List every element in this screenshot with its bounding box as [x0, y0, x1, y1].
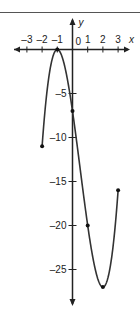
- x-tick-label: 2: [100, 34, 106, 45]
- x-tick-label: –2: [37, 34, 49, 45]
- data-point: [101, 285, 105, 289]
- data-point: [86, 224, 90, 228]
- y-tick-label: –5: [55, 88, 67, 99]
- origin-label: 0: [76, 36, 82, 47]
- x-axis-label: x: [128, 34, 135, 45]
- y-arrow-up-icon: [70, 18, 76, 25]
- x-arrow-right-icon: [124, 47, 130, 53]
- data-point: [71, 109, 75, 113]
- x-tick-label: –1: [52, 34, 64, 45]
- x-tick-label: 1: [85, 34, 91, 45]
- function-curve: [42, 50, 118, 288]
- data-point: [40, 144, 44, 148]
- x-tick-label: –3: [21, 34, 33, 45]
- y-arrow-down-icon: [70, 299, 76, 306]
- data-point: [116, 188, 120, 192]
- x-arrow-left-icon: [14, 47, 20, 53]
- x-tick-label: 3: [115, 34, 121, 45]
- y-tick-label: –10: [50, 132, 67, 143]
- y-tick-label: –20: [50, 220, 67, 231]
- y-tick-label: –25: [50, 264, 67, 275]
- function-graph: –3–2–11230xy–5–10–15–20–25: [0, 0, 140, 320]
- y-tick-label: –15: [50, 176, 67, 187]
- y-axis-label: y: [78, 17, 85, 28]
- data-point: [55, 48, 59, 52]
